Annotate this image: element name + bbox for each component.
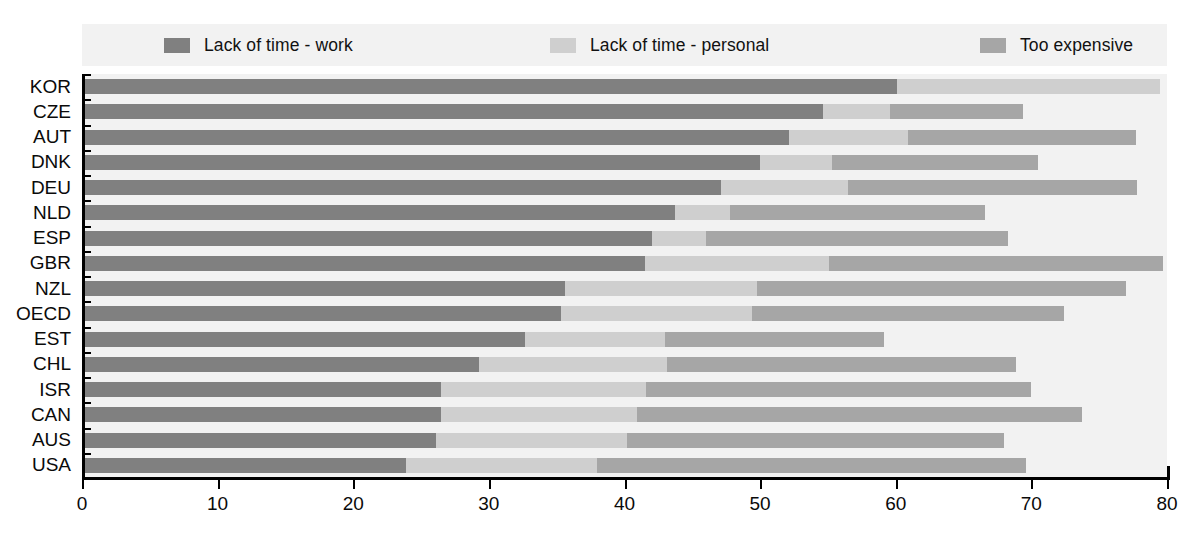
bar-segment-expensive [908, 130, 1136, 145]
x-axis-label-40: 40 [614, 494, 635, 513]
stacked-bar[interactable] [82, 306, 1064, 321]
stacked-bar[interactable] [82, 357, 1016, 372]
bar-segment-work [82, 407, 441, 422]
y-axis-label-can: CAN [31, 405, 71, 424]
stacked-bar[interactable] [82, 155, 1038, 170]
x-axis-tick [82, 480, 84, 489]
bar-segment-work [82, 458, 406, 473]
y-axis-tick [82, 377, 91, 379]
stacked-bar[interactable] [82, 130, 1136, 145]
bar-segment-expensive [646, 382, 1031, 397]
bar-segment-work [82, 256, 645, 271]
bar-segment-expensive [637, 407, 1082, 422]
x-axis-label-70: 70 [1021, 494, 1042, 513]
legend-swatch-expensive [980, 38, 1006, 53]
bar-segment-personal [823, 104, 891, 119]
bar-row [82, 377, 1167, 402]
x-axis-tick [353, 480, 355, 489]
bar-row [82, 150, 1167, 175]
stacked-bar[interactable] [82, 407, 1082, 422]
x-axis-label-30: 30 [478, 494, 499, 513]
bar-segment-personal [645, 256, 829, 271]
stacked-bar[interactable] [82, 205, 985, 220]
bar-segment-expensive [627, 433, 1004, 448]
y-axis-tick [82, 125, 91, 127]
bar-row [82, 301, 1167, 326]
bar-segment-work [82, 130, 789, 145]
bar-segment-work [82, 306, 561, 321]
y-axis-tick [82, 352, 91, 354]
bar-segment-work [82, 180, 721, 195]
stacked-bar[interactable] [82, 231, 1008, 246]
y-axis-label-dnk: DNK [31, 152, 71, 171]
y-axis-label-nld: NLD [33, 203, 71, 222]
bar-row [82, 125, 1167, 150]
stacked-bar[interactable] [82, 382, 1031, 397]
x-axis-tick [625, 480, 627, 489]
legend-item-too-expensive[interactable]: Too expensive [980, 35, 1133, 56]
stacked-bar[interactable] [82, 433, 1004, 448]
bar-segment-personal [675, 205, 731, 220]
y-axis-label-gbr: GBR [30, 253, 71, 272]
y-axis-tick [82, 175, 91, 177]
bar-segment-personal [652, 231, 706, 246]
bar-segment-expensive [706, 231, 1008, 246]
y-axis-label-cze: CZE [33, 102, 71, 121]
bar-segment-personal [561, 306, 752, 321]
bar-segment-work [82, 155, 760, 170]
bar-row [82, 276, 1167, 301]
x-axis-tick [896, 480, 898, 489]
bar-segment-expensive [757, 281, 1126, 296]
y-axis-label-oecd: OECD [16, 304, 71, 323]
legend-swatch-personal [550, 38, 576, 53]
bar-row [82, 428, 1167, 453]
bar-segment-expensive [890, 104, 1023, 119]
stacked-bar[interactable] [82, 79, 1160, 94]
x-axis-tick [760, 480, 762, 489]
bar-chart: Lack of time - work Lack of time - perso… [0, 0, 1202, 550]
y-axis-label-chl: CHL [33, 354, 71, 373]
y-axis-tick [82, 226, 91, 228]
legend-label-personal: Lack of time - personal [590, 35, 769, 56]
x-axis-label-60: 60 [885, 494, 906, 513]
x-axis-tick [1167, 480, 1169, 489]
bar-segment-expensive [832, 155, 1038, 170]
stacked-bar[interactable] [82, 332, 884, 347]
bar-segment-work [82, 281, 565, 296]
bar-segment-work [82, 332, 525, 347]
stacked-bar[interactable] [82, 458, 1026, 473]
y-axis-label-est: EST [34, 329, 71, 348]
legend-item-lack-of-time-work[interactable]: Lack of time - work [164, 35, 353, 56]
bar-segment-personal [479, 357, 666, 372]
stacked-bar[interactable] [82, 281, 1126, 296]
stacked-bar[interactable] [82, 256, 1163, 271]
x-axis-label-10: 10 [207, 494, 228, 513]
bar-segment-expensive [597, 458, 1026, 473]
x-axis-label-50: 50 [750, 494, 771, 513]
bar-segment-work [82, 357, 479, 372]
bar-segment-work [82, 104, 823, 119]
bar-segment-personal [441, 382, 646, 397]
y-axis-tick [82, 99, 91, 101]
y-axis-tick [82, 428, 91, 430]
bar-row [82, 352, 1167, 377]
bar-row [82, 200, 1167, 225]
y-axis-tick [82, 200, 91, 202]
x-axis-tick [489, 480, 491, 489]
x-axis-tick [1031, 480, 1033, 489]
y-axis-label-usa: USA [32, 455, 71, 474]
bar-row [82, 327, 1167, 352]
stacked-bar[interactable] [82, 104, 1023, 119]
bar-segment-expensive [730, 205, 985, 220]
bar-segment-personal [406, 458, 597, 473]
stacked-bar[interactable] [82, 180, 1137, 195]
x-axis-label-0: 0 [77, 494, 88, 513]
legend-item-lack-of-time-personal[interactable]: Lack of time - personal [550, 35, 769, 56]
bar-segment-personal [789, 130, 908, 145]
bar-segment-personal [760, 155, 832, 170]
bar-row [82, 226, 1167, 251]
legend-swatch-work [164, 38, 190, 53]
x-axis-label-20: 20 [343, 494, 364, 513]
bar-segment-work [82, 433, 436, 448]
bar-segment-work [82, 382, 441, 397]
